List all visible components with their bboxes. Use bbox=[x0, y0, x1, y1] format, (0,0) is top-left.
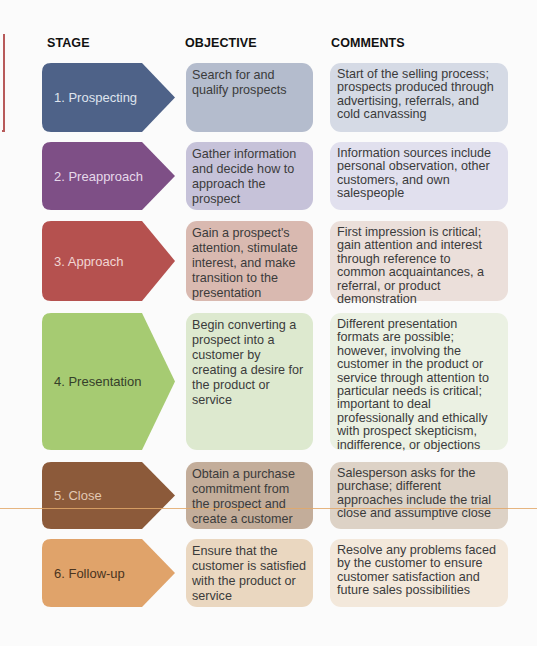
stage-arrow: 1. Prospecting bbox=[42, 63, 175, 132]
objective-box: Gain a prospect's attention, stimulate i… bbox=[186, 221, 313, 301]
process-row: 5. CloseObtain a purchase commitment fro… bbox=[0, 462, 537, 529]
stage-arrow: 6. Follow-up bbox=[42, 539, 175, 607]
stage-label: 2. Preapproach bbox=[54, 169, 143, 184]
comments-box: Different presentation formats are possi… bbox=[330, 313, 508, 450]
comments-box: Resolve any problems faced by the custom… bbox=[330, 539, 508, 607]
process-row: 6. Follow-upEnsure that the customer is … bbox=[0, 539, 537, 607]
scan-line-artifact bbox=[0, 508, 537, 509]
header-comments: COMMENTS bbox=[331, 36, 405, 50]
stage-arrow: 4. Presentation bbox=[42, 313, 175, 450]
header-stage: STAGE bbox=[47, 36, 90, 50]
header-objective: OBJECTIVE bbox=[185, 36, 257, 50]
stage-label: 1. Prospecting bbox=[54, 90, 137, 105]
process-row: 1. ProspectingSearch for and qualify pro… bbox=[0, 63, 537, 132]
objective-box: Gather information and decide how to app… bbox=[186, 142, 313, 210]
objective-box: Obtain a purchase commitment from the pr… bbox=[186, 462, 313, 529]
stage-label: 5. Close bbox=[54, 488, 102, 503]
objective-box: Ensure that the customer is satisfied wi… bbox=[186, 539, 313, 607]
comments-box: Start of the selling process; prospects … bbox=[330, 63, 508, 132]
objective-box: Begin converting a prospect into a custo… bbox=[186, 313, 313, 450]
process-row: 2. PreapproachGather information and dec… bbox=[0, 142, 537, 210]
comments-box: Information sources include personal obs… bbox=[330, 142, 508, 210]
process-row: 4. PresentationBegin converting a prospe… bbox=[0, 313, 537, 450]
stage-arrow: 2. Preapproach bbox=[42, 142, 175, 210]
stage-label: 6. Follow-up bbox=[54, 566, 125, 581]
stage-label: 4. Presentation bbox=[54, 374, 141, 389]
comments-box: First impression is critical; gain atten… bbox=[330, 221, 508, 301]
objective-box: Search for and qualify prospects bbox=[186, 63, 313, 132]
stage-arrow: 5. Close bbox=[42, 462, 175, 529]
comments-box: Salesperson asks for the purchase; diffe… bbox=[330, 462, 508, 529]
stage-arrow: 3. Approach bbox=[42, 221, 175, 301]
stage-label: 3. Approach bbox=[54, 254, 123, 269]
process-row: 3. ApproachGain a prospect's attention, … bbox=[0, 221, 537, 301]
